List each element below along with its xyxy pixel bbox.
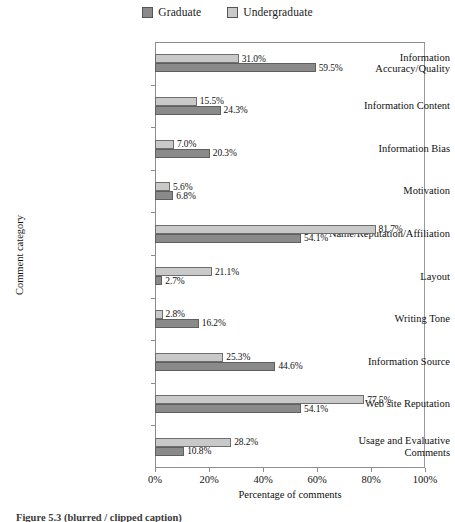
bar-graduate — [155, 447, 184, 456]
bar-value-label: 77.5% — [367, 395, 391, 405]
bar-graduate — [155, 63, 316, 72]
y-axis-tick — [151, 383, 155, 384]
figure-caption: Figure 5.3 (blurred / clipped caption) — [16, 512, 256, 522]
bar-value-label: 54.1% — [304, 404, 328, 414]
x-axis-tick — [425, 468, 426, 472]
bar-value-label: 15.5% — [200, 96, 224, 106]
bar-undergraduate — [155, 353, 223, 362]
x-axis-title: Percentage of comments — [155, 489, 425, 500]
category-label: Information Content — [305, 100, 455, 112]
bar-value-label: 81.7% — [379, 224, 403, 234]
y-axis-title: Comment category — [14, 215, 25, 295]
y-axis-tick — [151, 340, 155, 341]
legend-label-undergraduate: Undergraduate — [243, 6, 312, 18]
bar-graduate — [155, 149, 210, 158]
bar-undergraduate — [155, 225, 376, 234]
bar-value-label: 20.3% — [213, 148, 237, 158]
bar-value-label: 10.8% — [187, 446, 211, 456]
category-label: Usage and Evaluative Comments — [305, 435, 455, 458]
bar-value-label: 24.3% — [224, 105, 248, 115]
x-axis-tick-label: 40% — [241, 474, 285, 485]
x-axis-tick — [263, 468, 264, 472]
bar-value-label: 2.8% — [166, 309, 185, 319]
y-axis-tick — [151, 255, 155, 256]
bar-undergraduate — [155, 182, 170, 191]
bar-graduate — [155, 319, 199, 328]
category-label: Layout — [305, 271, 455, 283]
legend-swatch-graduate — [142, 7, 153, 18]
x-axis-tick-label: 80% — [349, 474, 393, 485]
x-axis-tick — [371, 468, 372, 472]
bar-undergraduate — [155, 54, 239, 63]
bar-value-label: 54.1% — [304, 233, 328, 243]
bar-undergraduate — [155, 140, 174, 149]
x-axis-tick-label: 60% — [295, 474, 339, 485]
x-axis-tick-label: 0% — [133, 474, 177, 485]
bar-value-label: 2.7% — [165, 276, 184, 286]
x-axis-tick-label: 20% — [187, 474, 231, 485]
bar-undergraduate — [155, 310, 163, 319]
x-axis-tick — [317, 468, 318, 472]
category-label: Information Bias — [305, 143, 455, 155]
bar-graduate — [155, 234, 301, 243]
y-axis-tick — [151, 127, 155, 128]
bar-value-label: 6.8% — [176, 191, 195, 201]
bar-value-label: 31.0% — [242, 54, 266, 64]
bar-graduate — [155, 106, 221, 115]
chart-legend: Graduate Undergraduate — [0, 6, 455, 18]
bar-value-label: 7.0% — [177, 139, 196, 149]
legend-swatch-undergraduate — [227, 7, 238, 18]
x-axis-tick — [155, 468, 156, 472]
category-label: Motivation — [305, 185, 455, 197]
bar-value-label: 21.1% — [215, 267, 239, 277]
y-axis-tick — [151, 212, 155, 213]
y-axis-tick — [151, 85, 155, 86]
bar-value-label: 28.2% — [234, 437, 258, 447]
bar-undergraduate — [155, 97, 197, 106]
category-label: Information Source — [305, 356, 455, 368]
legend-label-graduate: Graduate — [158, 6, 201, 18]
bar-value-label: 16.2% — [202, 318, 226, 328]
x-axis-tick — [209, 468, 210, 472]
legend-item-graduate: Graduate — [142, 6, 201, 18]
bar-graduate — [155, 276, 162, 285]
bar-graduate — [155, 404, 301, 413]
y-axis-tick — [151, 298, 155, 299]
bar-undergraduate — [155, 395, 364, 404]
legend-item-undergraduate: Undergraduate — [227, 6, 312, 18]
bar-graduate — [155, 191, 173, 200]
category-label: Writing Tone — [305, 313, 455, 325]
y-axis-tick — [151, 425, 155, 426]
bar-value-label: 59.5% — [319, 63, 343, 73]
bar-graduate — [155, 362, 275, 371]
y-axis-tick — [151, 170, 155, 171]
bar-value-label: 25.3% — [226, 352, 250, 362]
x-axis-tick-label: 100% — [403, 474, 447, 485]
bar-value-label: 44.6% — [278, 361, 302, 371]
